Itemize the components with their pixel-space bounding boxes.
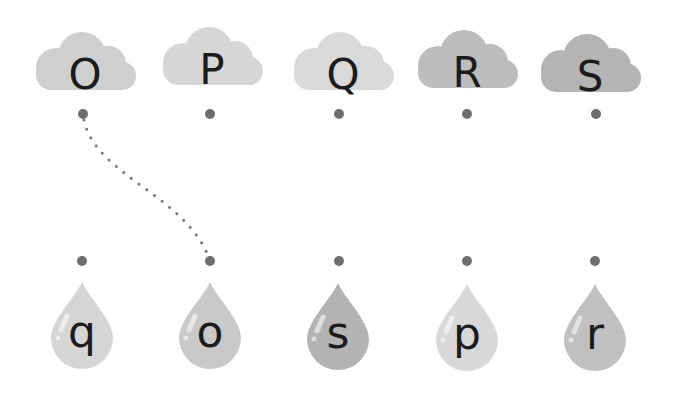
drop-letter: p: [434, 312, 500, 356]
cloud-letter: O: [30, 54, 140, 96]
drop-card-q[interactable]: q: [49, 280, 115, 370]
top-connection-point[interactable]: [462, 109, 472, 119]
bottom-connection-point[interactable]: [77, 256, 87, 266]
drop-card-o[interactable]: o: [177, 280, 243, 370]
drop-card-r[interactable]: r: [562, 282, 628, 372]
top-connection-point[interactable]: [591, 109, 601, 119]
drop-card-s[interactable]: s: [305, 281, 371, 371]
cloud-letter: P: [157, 49, 267, 91]
cloud-card-q[interactable]: Q: [288, 30, 398, 94]
cloud-card-s[interactable]: S: [535, 32, 645, 96]
drop-letter: o: [177, 310, 243, 354]
bottom-connection-point[interactable]: [590, 256, 600, 266]
cloud-card-p[interactable]: P: [157, 25, 267, 89]
cloud-card-o[interactable]: O: [30, 30, 140, 94]
drop-letter: r: [562, 312, 628, 356]
cloud-letter: Q: [288, 54, 398, 96]
bottom-connection-point[interactable]: [334, 256, 344, 266]
cloud-letter: S: [535, 56, 645, 98]
top-connection-point[interactable]: [205, 109, 215, 119]
top-connection-point[interactable]: [334, 109, 344, 119]
cloud-card-r[interactable]: R: [412, 28, 522, 92]
top-connection-point[interactable]: [78, 109, 88, 119]
drop-letter: s: [305, 311, 371, 355]
drop-card-p[interactable]: p: [434, 282, 500, 372]
drop-letter: q: [49, 310, 115, 354]
bottom-connection-point[interactable]: [462, 256, 472, 266]
cloud-letter: R: [412, 52, 522, 94]
bottom-connection-point[interactable]: [205, 256, 215, 266]
